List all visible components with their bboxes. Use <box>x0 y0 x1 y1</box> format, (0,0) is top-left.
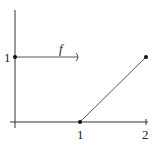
closed-point-0-1 <box>13 55 17 59</box>
x-tick-label-1: 1 <box>77 127 84 142</box>
function-diagram: f 1 1 2 <box>0 0 160 145</box>
closed-point-2-1 <box>144 55 148 59</box>
y-tick-label-1: 1 <box>4 50 11 65</box>
closed-point-1-0 <box>78 120 82 124</box>
x-tick-label-2: 2 <box>142 127 149 142</box>
function-label: f <box>59 41 65 56</box>
linear-segment <box>80 57 146 122</box>
